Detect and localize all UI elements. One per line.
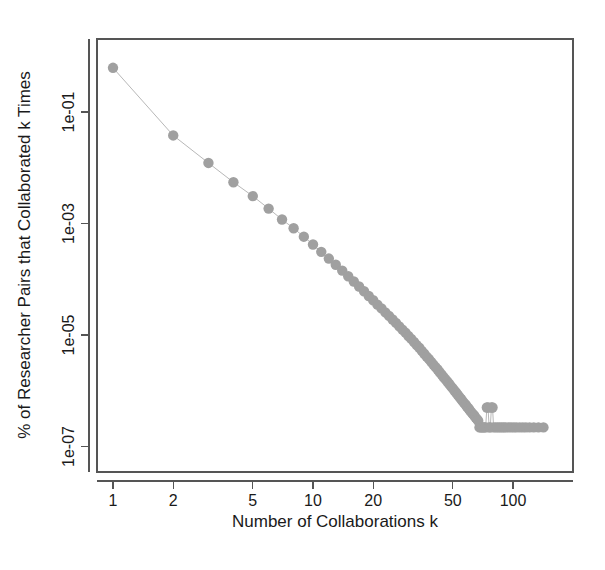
data-point [288,223,298,233]
data-point [248,191,258,201]
x-tick-group: 125102050100 [109,481,527,509]
log-log-scatter-plot: 125102050100 1e-011e-031e-051e-07 Number… [0,0,605,570]
x-tick-label: 20 [364,492,382,509]
data-point [228,177,238,187]
data-point [308,239,318,249]
x-tick-label: 5 [248,492,257,509]
series-data-points [108,63,549,433]
x-tick-label: 50 [444,492,462,509]
y-axis-title: % of Researcher Pairs that Collaborated … [15,71,34,439]
x-tick-label: 10 [304,492,322,509]
data-point [263,203,273,213]
data-point [108,63,118,73]
y-axis: 1e-011e-031e-051e-07 [60,39,90,472]
data-point [203,158,213,168]
x-tick-label: 2 [169,492,178,509]
data-point [487,402,497,412]
data-point [299,231,309,241]
plot-frame [97,39,573,472]
y-tick-label: 1e-03 [60,203,77,244]
y-tick-label: 1e-07 [60,426,77,467]
x-axis: 125102050100 [97,481,573,509]
y-tick-group: 1e-011e-031e-051e-07 [60,91,90,467]
y-tick-label: 1e-01 [60,91,77,132]
data-point [168,130,178,140]
x-tick-label: 100 [500,492,527,509]
y-tick-label: 1e-05 [60,314,77,355]
data-point [277,214,287,224]
chart-figure: 125102050100 1e-011e-031e-051e-07 Number… [0,0,605,570]
x-tick-label: 1 [109,492,118,509]
series-connecting-line [113,68,543,428]
data-point [538,422,548,432]
x-axis-title: Number of Collaborations k [232,512,438,531]
